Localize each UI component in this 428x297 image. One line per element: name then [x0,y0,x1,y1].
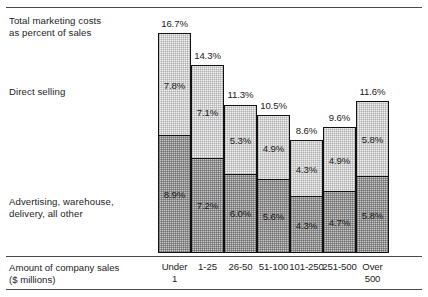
bar-segment-value: 4.7% [324,217,355,228]
chart-title: Total marketing costs as percent of sale… [9,15,101,40]
bar-total-label: 11.6% [352,86,393,97]
bar-segment-value: 5.3% [225,134,256,145]
bar-segment-advertising: 5.6% [257,179,290,253]
bar-segment-value: 6.0% [225,208,256,219]
bar-segment-advertising: 4.3% [290,196,323,253]
x-axis-caption: Amount of company sales ($ millions) [9,262,119,287]
bar-segment-value: 4.9% [258,142,289,153]
bar-segment-value: 5.8% [357,134,388,145]
bar-segment-direct-selling: 4.9% [323,127,356,192]
bar-total-label: 14.3% [187,50,228,61]
x-axis-tick-label: Over 500 [352,261,393,286]
bar-total-label: 16.7% [154,18,195,29]
bar-segment-value: 7.8% [159,79,190,90]
bar-segment-direct-selling: 5.8% [356,101,389,178]
bar-total-label: 8.6% [286,125,327,136]
bar-segment-direct-selling: 5.3% [224,105,257,175]
bar-total-label: 11.3% [220,89,261,100]
bar-column: 16.7%7.8%8.9% [158,33,191,252]
bar-column: 11.3%5.3%6.0% [224,105,257,252]
bar-total-label: 9.6% [319,112,360,123]
bar-segment-value: 7.1% [192,106,223,117]
bar-segment-advertising: 4.7% [323,191,356,253]
bar-segment-value: 4.3% [291,219,322,230]
bar-segment-advertising: 6.0% [224,174,257,253]
bar-segment-advertising: 8.9% [158,135,191,253]
bar-segment-value: 5.8% [357,209,388,220]
bar-segment-value: 4.9% [324,154,355,165]
bar-column: 9.6%4.9%4.7% [323,127,356,252]
legend-label-direct-selling: Direct selling [9,86,65,98]
bar-column: 8.6%4.3%4.3% [290,140,323,252]
bar-segment-value: 7.2% [192,200,223,211]
bar-column: 11.6%5.8%5.8% [356,101,389,252]
bottom-rule [6,289,422,290]
plot-area: 16.7%7.8%8.9%14.3%7.1%7.2%11.3%5.3%6.0%1… [158,0,389,256]
bar-segment-direct-selling: 7.8% [158,33,191,136]
bar-segment-direct-selling: 7.1% [191,65,224,159]
bar-segment-value: 8.9% [159,189,190,200]
bar-segment-direct-selling: 4.3% [290,140,323,197]
bar-segment-advertising: 7.2% [191,158,224,253]
legend-label-advertising: Advertising, warehouse, delivery, all ot… [9,196,114,221]
bar-segment-value: 4.3% [291,163,322,174]
bar-total-label: 10.5% [253,100,294,111]
chart-figure: Total marketing costs as percent of sale… [0,0,428,297]
axis-rule [6,256,422,257]
bar-segment-advertising: 5.8% [356,176,389,253]
bar-segment-value: 5.6% [258,211,289,222]
